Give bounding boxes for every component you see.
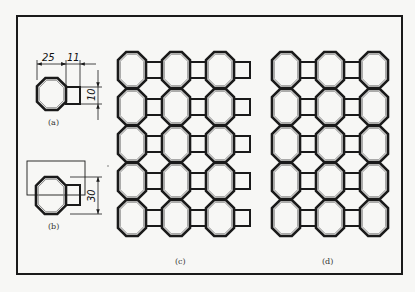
octagon-shape [360,52,388,88]
octagon-shape [37,78,66,110]
square-shape [300,99,316,115]
octagon-shape [316,89,344,125]
octagon-inner-line [362,128,386,160]
square-shape [300,62,316,78]
octagon-inner-line [208,91,232,123]
arrowhead-icon [80,62,85,66]
octagon-inner-line [318,54,342,86]
octagon-inner-line [120,202,144,234]
octagon-inner-line [318,202,342,234]
octagon-inner-line [164,165,188,197]
octagon-shape [360,200,388,236]
caption-a: (a) [48,118,59,127]
octagon-shape [272,163,300,199]
octagon-inner-line [274,91,298,123]
square-shape [190,136,206,152]
square-shape [234,99,250,115]
octagon-inner-line [208,128,232,160]
octagon-inner-line [318,128,342,160]
square-shape [146,210,162,226]
octagon-inner-line [362,202,386,234]
square-shape [344,210,360,226]
octagon-inner-line [362,54,386,86]
square-shape [234,136,250,152]
square-shape [344,136,360,152]
octagon-inner-line [120,54,144,86]
square-shape [234,210,250,226]
octagon-inner-line [274,128,298,160]
octagon-shape [162,52,190,88]
caption-c: (c) [175,257,186,266]
octagon-shape [272,52,300,88]
octagon-shape [272,126,300,162]
octagon-shape [316,163,344,199]
square-shape [146,99,162,115]
square-shape [300,210,316,226]
square-shape [234,62,250,78]
octagon-shape [272,89,300,125]
octagon-inner-line [164,128,188,160]
dimension-10: 10 [86,88,97,101]
octagon-shape [118,52,146,88]
octagon-shape [118,200,146,236]
octagon-inner-line [274,54,298,86]
octagon-shape [118,89,146,125]
octagon-inner-line [164,91,188,123]
octagon-shape [206,163,234,199]
octagon-shape [206,52,234,88]
arrowhead-icon [96,82,100,87]
octagon-shape [316,200,344,236]
octagon-shape [272,200,300,236]
octagon-shape [360,126,388,162]
octagon-shape [162,163,190,199]
octagon-inner-line [208,202,232,234]
square-shape [190,173,206,189]
caption-b: (b) [48,222,59,231]
octagon-inner-line [318,165,342,197]
square-shape [234,173,250,189]
octagon-inner-line [362,91,386,123]
caption-d: (d) [322,257,333,266]
octagon-shape [162,89,190,125]
stray-dot [107,165,108,166]
octagon-inner-line [274,202,298,234]
octagon-inner-line [208,54,232,86]
square-shape [146,136,162,152]
arrowhead-icon [96,177,100,182]
square-shape [66,87,80,104]
square-shape [344,99,360,115]
octagon-shape [206,200,234,236]
octagon-inner-line [362,165,386,197]
octagon-inner-line [38,179,64,212]
arrowhead-icon [96,104,100,109]
octagon-inner-line [120,128,144,160]
square-shape [300,173,316,189]
octagon-shape [316,126,344,162]
square-shape [300,136,316,152]
octagon-shape [36,177,66,214]
arrowhead-icon [96,209,100,214]
octagon-shape [162,126,190,162]
square-shape [190,99,206,115]
octagon-shape [118,126,146,162]
drawing-canvas: 25111030 [0,0,415,292]
octagon-shape [360,163,388,199]
square-shape [146,173,162,189]
octagon-shape [118,163,146,199]
octagon-shape [206,126,234,162]
dimension-25: 25 [42,52,55,63]
octagon-inner-line [120,91,144,123]
octagon-inner-line [164,202,188,234]
octagon-shape [316,52,344,88]
square-shape [344,62,360,78]
octagon-inner-line [318,91,342,123]
arrowhead-icon [61,62,66,66]
square-shape [190,210,206,226]
square-shape [190,62,206,78]
square-shape [146,62,162,78]
octagon-shape [162,200,190,236]
dimension-30: 30 [86,189,97,202]
octagon-inner-line [274,165,298,197]
dimension-11: 11 [67,52,80,63]
octagon-inner-line [120,165,144,197]
